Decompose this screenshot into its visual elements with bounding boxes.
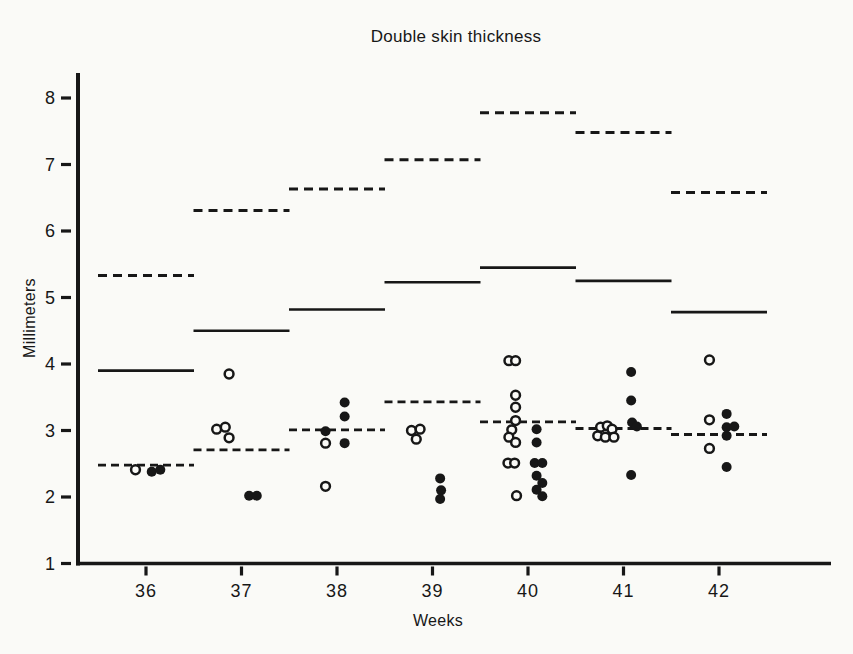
week-41-open-circle-point xyxy=(610,433,619,442)
week-37-open-circle-point xyxy=(225,370,234,379)
x-tick-label-36: 36 xyxy=(135,581,157,601)
week-40-open-circle-point xyxy=(511,403,520,412)
week-42-filled-circle-point xyxy=(722,462,732,472)
week-38-filled-circle-point xyxy=(340,412,350,422)
week-38-filled-circle-point xyxy=(340,438,350,448)
week-39-open-circle-point xyxy=(416,425,425,434)
y-tick-label-6: 6 xyxy=(45,221,55,241)
week-39-filled-circle-point xyxy=(436,485,446,495)
week-36-filled-circle-point xyxy=(155,465,165,475)
y-tick-label-3: 3 xyxy=(45,421,55,441)
week-39-open-circle-point xyxy=(407,426,416,435)
chart-canvas: 8765432136373839404142 xyxy=(0,0,853,654)
week-36-open-circle-point xyxy=(131,465,140,474)
x-tick-label-42: 42 xyxy=(708,581,730,601)
y-tick-label-8: 8 xyxy=(45,88,55,108)
week-40-open-circle-point xyxy=(511,391,520,400)
week-40-open-circle-point xyxy=(511,416,520,425)
week-38-open-circle-point xyxy=(321,482,330,491)
week-42-filled-circle-point xyxy=(722,431,732,441)
week-40-open-circle-point xyxy=(511,438,520,447)
week-39-filled-circle-point xyxy=(435,494,445,504)
week-39-filled-circle-point xyxy=(435,473,445,483)
week-40-open-circle-point xyxy=(510,459,519,468)
week-37-open-circle-point xyxy=(221,423,230,432)
week-42-open-circle-point xyxy=(705,444,714,453)
week-42-open-circle-point xyxy=(705,415,714,424)
week-40-filled-circle-point xyxy=(537,491,547,501)
week-42-open-circle-point xyxy=(705,356,714,365)
week-40-filled-circle-point xyxy=(532,424,542,434)
x-tick-label-38: 38 xyxy=(326,581,348,601)
x-tick-label-37: 37 xyxy=(230,581,252,601)
y-tick-label-5: 5 xyxy=(45,288,55,308)
week-38-filled-circle-point xyxy=(340,398,350,408)
week-40-open-circle-point xyxy=(511,356,520,365)
chart-figure: Double skin thickness Millimeters Weeks … xyxy=(0,0,853,654)
week-38-open-circle-point xyxy=(321,439,330,448)
week-41-filled-circle-point xyxy=(626,367,636,377)
week-37-open-circle-point xyxy=(225,433,234,442)
week-41-filled-circle-point xyxy=(632,422,642,432)
week-42-filled-circle-point xyxy=(729,422,739,432)
week-40-open-circle-point xyxy=(512,491,521,500)
week-41-filled-circle-point xyxy=(626,396,636,406)
y-tick-label-7: 7 xyxy=(45,155,55,175)
y-tick-label-4: 4 xyxy=(45,354,55,374)
week-39-open-circle-point xyxy=(412,435,421,444)
week-40-filled-circle-point xyxy=(532,437,542,447)
x-tick-label-39: 39 xyxy=(421,581,443,601)
x-tick-label-41: 41 xyxy=(612,581,634,601)
week-37-filled-circle-point xyxy=(252,491,262,501)
week-38-filled-circle-point xyxy=(321,426,331,436)
week-42-filled-circle-point xyxy=(722,409,732,419)
week-36-filled-circle-point xyxy=(147,467,157,477)
y-tick-label-1: 1 xyxy=(45,554,55,574)
x-tick-label-40: 40 xyxy=(517,581,539,601)
week-40-filled-circle-point xyxy=(537,458,547,468)
y-tick-label-2: 2 xyxy=(45,487,55,507)
week-41-filled-circle-point xyxy=(626,470,636,480)
